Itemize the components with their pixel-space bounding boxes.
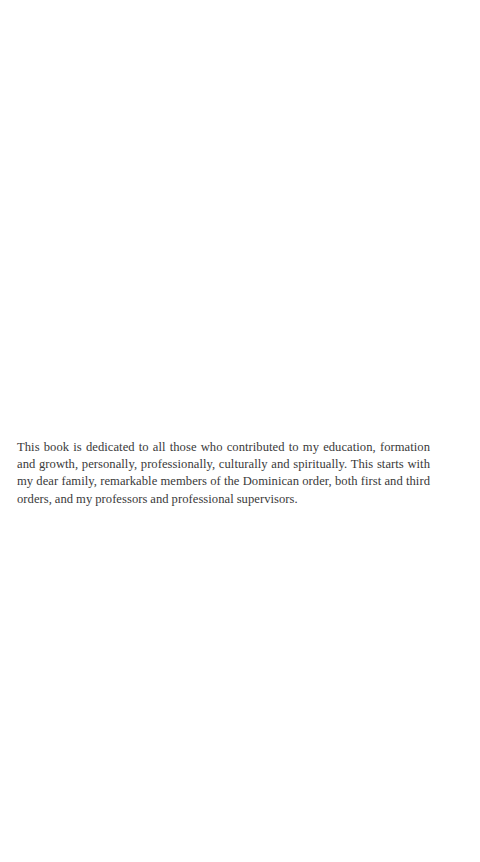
document-page: This book is dedicated to all those who … bbox=[0, 0, 480, 862]
dedication-paragraph: This book is dedicated to all those who … bbox=[17, 439, 430, 508]
